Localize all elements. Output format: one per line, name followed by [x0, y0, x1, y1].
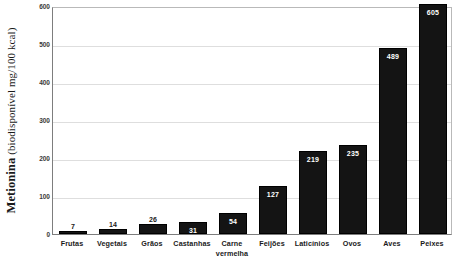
y-axis-title-main: Metionina: [5, 157, 19, 213]
y-tick-mark: [47, 235, 50, 236]
gridline: [53, 46, 451, 47]
bar: [379, 48, 407, 234]
bar: [339, 145, 367, 234]
bar-value-label: 235: [333, 150, 373, 157]
y-tick-mark: [47, 121, 50, 122]
plot-area: 714263154127219235489605: [52, 7, 452, 235]
bar-value-label: 26: [133, 216, 173, 223]
bar-value-label: 54: [213, 218, 253, 225]
x-axis-category-label: Peixes: [406, 239, 458, 249]
bar: [59, 231, 87, 234]
bar: [99, 229, 127, 234]
bar: [419, 4, 447, 234]
bar: [139, 224, 167, 234]
bar-chart: Metionina (biodisponível mg/100 kcal) 01…: [0, 0, 461, 269]
bar-value-label: 489: [373, 53, 413, 60]
bar-value-label: 605: [413, 9, 453, 16]
y-tick-mark: [47, 7, 50, 8]
bar-value-label: 127: [253, 191, 293, 198]
y-tick-mark: [47, 45, 50, 46]
bar: [299, 151, 327, 234]
y-axis-title-units: (biodisponível mg/100 kcal): [6, 27, 18, 157]
bar-value-label: 219: [293, 156, 333, 163]
bar-value-label: 7: [53, 223, 93, 230]
y-axis-ticks: 0100200300400500600: [24, 0, 50, 269]
bar-value-label: 14: [93, 221, 133, 228]
y-tick-mark: [47, 197, 50, 198]
y-axis-title: Metionina (biodisponível mg/100 kcal): [0, 0, 24, 240]
y-tick-mark: [47, 159, 50, 160]
x-axis-labels: FrutasVegetaisGrãosCastanhasCarnevermelh…: [52, 239, 452, 269]
y-tick-mark: [47, 83, 50, 84]
bar-value-label: 31: [173, 227, 213, 234]
